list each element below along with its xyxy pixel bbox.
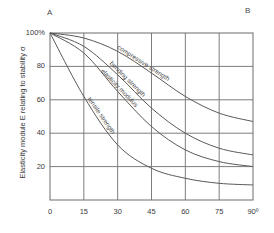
plot-canvas: compressive strengthbending strengthelas…	[0, 0, 274, 233]
chart-figure: A B Elasticity module E relating to stab…	[0, 0, 274, 233]
grid-lines	[50, 33, 253, 200]
curve-label-tensile-strength: tensile strength	[86, 96, 118, 136]
